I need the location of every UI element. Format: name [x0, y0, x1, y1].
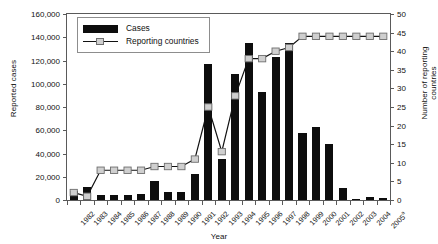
- line-marker: [339, 33, 346, 39]
- y-axis-left-tick-label: 60,000: [36, 126, 60, 135]
- y-axis-right-tick: [390, 14, 394, 15]
- y-axis-right-tick: [390, 181, 394, 182]
- y-axis-right-tick-label: 30: [397, 84, 406, 93]
- plot-area: 020,00040,00060,00080,000100,000120,0001…: [67, 14, 390, 200]
- line-marker: [151, 163, 158, 169]
- y-axis-right-tick: [390, 144, 394, 145]
- line-marker: [353, 33, 360, 39]
- x-axis-tick: [202, 200, 203, 205]
- line-marker: [326, 33, 333, 39]
- y-axis-right-tick-label: 35: [397, 65, 406, 74]
- line-marker: [191, 156, 198, 162]
- reporting-countries-line: [74, 36, 384, 196]
- x-axis-tick: [390, 200, 391, 205]
- y-axis-right-tick-label: 40: [397, 47, 406, 56]
- x-axis-tick: [80, 200, 81, 205]
- y-axis-right-tick: [390, 126, 394, 127]
- y-axis-left-tick-label: 80,000: [36, 103, 60, 112]
- line-marker: [111, 167, 118, 173]
- line-marker: [137, 167, 144, 173]
- legend-bar-swatch-icon: [83, 25, 118, 33]
- x-axis-tick: [148, 200, 149, 205]
- line-marker: [232, 93, 239, 99]
- line-marker: [366, 33, 373, 39]
- x-axis-tick: [107, 200, 108, 205]
- chart-figure: Reported cases Number of reporting count…: [0, 0, 438, 244]
- x-axis-tick: [94, 200, 95, 205]
- legend-item-cases: Cases: [83, 22, 204, 35]
- x-axis-tick: [377, 200, 378, 205]
- legend-label-cases: Cases: [126, 24, 150, 32]
- line-marker: [205, 104, 212, 110]
- x-axis-tick: [269, 200, 270, 205]
- y-axis-right-tick-label: 50: [397, 10, 406, 19]
- x-axis-tick: [134, 200, 135, 205]
- x-axis-tick: [282, 200, 283, 205]
- x-axis-tick: [336, 200, 337, 205]
- x-axis-tick: [175, 200, 176, 205]
- line-marker: [178, 163, 185, 169]
- reporting-countries-markers: [70, 33, 387, 199]
- y-axis-right-tick: [390, 33, 394, 34]
- chart-legend: Cases Reporting countries: [77, 17, 210, 53]
- x-axis-tick: [363, 200, 364, 205]
- line-marker: [380, 33, 387, 39]
- y-axis-left-tick-label: 160,000: [31, 10, 60, 19]
- x-axis-tick-label: 2005a: [388, 210, 409, 231]
- line-marker: [70, 189, 77, 195]
- y-axis-right-tick-label: 0: [397, 196, 401, 205]
- y-axis-left-tick-label: 40,000: [36, 149, 60, 158]
- line-marker: [272, 48, 279, 54]
- y-axis-left-tick-label: 20,000: [36, 172, 60, 181]
- x-axis-tick: [255, 200, 256, 205]
- x-axis-tick: [323, 200, 324, 205]
- y-axis-left-tick-label: 100,000: [31, 79, 60, 88]
- y-axis-right-tick-label: 15: [397, 140, 406, 149]
- y-axis-right-title: Number of reporting countries: [420, 33, 438, 133]
- line-marker: [218, 148, 225, 154]
- x-axis-tick: [229, 200, 230, 205]
- y-axis-right-tick: [390, 163, 394, 164]
- y-axis-right-tick-label: 10: [397, 158, 406, 167]
- legend-label-reporting-countries: Reporting countries: [126, 37, 199, 45]
- x-axis-tick: [67, 200, 68, 205]
- x-axis-tick: [161, 200, 162, 205]
- legend-line-swatch-icon: [83, 37, 118, 46]
- y-axis-left-tick-label: 120,000: [31, 56, 60, 65]
- x-axis-tick: [121, 200, 122, 205]
- x-axis-tick: [309, 200, 310, 205]
- y-axis-right-tick-label: 20: [397, 121, 406, 130]
- y-axis-left-tick-label: 0: [56, 196, 60, 205]
- line-marker: [164, 163, 171, 169]
- y-axis-right-tick-label: 25: [397, 103, 406, 112]
- y-axis-right-tick: [390, 88, 394, 89]
- line-marker: [259, 55, 266, 61]
- y-axis-right-tick-label: 5: [397, 177, 401, 186]
- x-axis-tick: [242, 200, 243, 205]
- y-axis-right-tick: [390, 51, 394, 52]
- legend-item-reporting-countries: Reporting countries: [83, 35, 204, 48]
- x-axis-tick: [188, 200, 189, 205]
- line-marker: [299, 33, 306, 39]
- x-axis-tick: [296, 200, 297, 205]
- x-axis-title: Year: [0, 232, 438, 241]
- y-axis-left-tick-label: 140,000: [31, 33, 60, 42]
- line-marker: [312, 33, 319, 39]
- y-axis-right-tick: [390, 107, 394, 108]
- y-axis-right-tick-label: 45: [397, 28, 406, 37]
- x-axis-tick: [215, 200, 216, 205]
- y-axis-right-tick: [390, 70, 394, 71]
- line-marker: [245, 55, 252, 61]
- x-axis-tick: [350, 200, 351, 205]
- line-marker: [124, 167, 131, 173]
- line-marker: [97, 167, 104, 173]
- y-axis-left-title: Reported cases: [9, 50, 18, 128]
- line-marker: [285, 44, 292, 50]
- line-marker: [84, 193, 91, 199]
